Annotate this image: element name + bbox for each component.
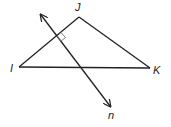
label-j: J [74,1,81,13]
label-n: n [108,109,114,121]
side-jk [79,17,150,68]
geometry-diagram: J I K n [0,0,171,127]
line-n [41,15,110,106]
triangle-ijk [19,17,150,68]
side-ik [19,67,150,68]
label-i: I [10,62,13,74]
label-k: K [153,64,161,76]
